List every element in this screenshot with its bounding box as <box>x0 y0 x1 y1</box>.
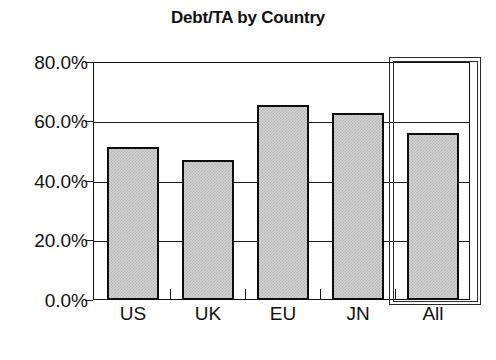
x-tick-mark <box>320 289 321 300</box>
y-tick-mark <box>85 121 93 122</box>
y-tick-label: 20.0% <box>0 231 88 250</box>
x-tick-label-uk: UK <box>182 303 234 325</box>
x-axis: US UK EU JN All <box>93 303 470 337</box>
y-tick-mark <box>85 240 93 241</box>
y-axis: 80.0% 60.0% 40.0% 20.0% 0.0% <box>0 0 88 360</box>
x-tick-label-eu: EU <box>257 303 309 325</box>
x-tick-mark <box>245 289 246 300</box>
x-tick-label-all: All <box>407 303 459 325</box>
y-tick-label: 40.0% <box>0 172 88 191</box>
y-tick-label: 60.0% <box>0 112 88 131</box>
y-tick-mark <box>85 300 93 301</box>
y-tick-label: 0.0% <box>0 291 88 310</box>
x-tick-label-us: US <box>107 303 159 325</box>
y-tick-mark <box>85 62 93 63</box>
chart-figure: Debt/TA by Country 80.0% 60.0% 40.0% 20.… <box>0 0 496 360</box>
y-tick-label: 80.0% <box>0 53 88 72</box>
x-tick-mark <box>170 289 171 300</box>
x-tick-mark <box>395 289 396 300</box>
x-axis-ticks <box>93 62 470 300</box>
y-tick-mark <box>85 181 93 182</box>
x-tick-label-jn: JN <box>332 303 384 325</box>
